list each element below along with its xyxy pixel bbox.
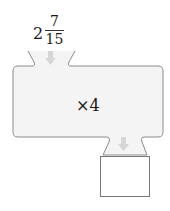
input-numerator: 7 <box>45 14 64 29</box>
input-denominator: 15 <box>45 32 64 47</box>
operation-label: ×4 <box>76 96 100 115</box>
input-fraction: 7 15 <box>45 14 64 47</box>
input-whole: 2 <box>33 24 43 43</box>
answer-box[interactable] <box>100 156 150 197</box>
